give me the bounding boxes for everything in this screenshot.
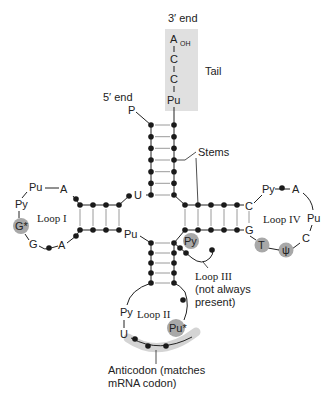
tail-base-c1: C — [170, 53, 178, 65]
loop4-base-pu: Pu — [307, 212, 320, 224]
loop2-label: Loop II — [137, 308, 171, 320]
junction-base-pu: Pu — [124, 228, 137, 240]
tail-oh: OH — [180, 40, 191, 47]
anticodon-stem — [148, 240, 177, 286]
anticodon-label-line1: Anticodon (matches — [108, 364, 206, 376]
loop4-label: Loop IV — [263, 213, 301, 225]
tail-base-pu: Pu — [167, 94, 180, 106]
anticodon-label-line2: mRNA codon) — [108, 377, 176, 389]
stems-label: Stems — [198, 146, 230, 158]
tail-label: Tail — [205, 65, 222, 77]
loop-iv: Py A Pu C ψ T Loop IV — [250, 183, 320, 258]
t-stem-base-c: C — [245, 200, 253, 212]
loop3-label-line3: present) — [195, 296, 235, 308]
loop4-base-py: Py — [262, 183, 275, 195]
acceptor-stem — [148, 122, 177, 198]
loop3-label-line1: Loop III — [195, 270, 232, 282]
phosphate-label: P — [128, 104, 135, 116]
loop4-base-c: C — [302, 232, 310, 244]
loop4-base-t: T — [258, 239, 265, 251]
three-prime-end-label: 3′ end — [168, 12, 198, 24]
loop2-base-py: Py — [120, 306, 133, 318]
loop3-base-py: Py — [184, 235, 197, 247]
loop-i: A Pu Py G* G A Loop I — [13, 181, 80, 251]
loop1-base-a-top: A — [60, 183, 68, 195]
loop3-label-line2: (not always — [195, 283, 251, 295]
loop1-base-g: G — [29, 238, 38, 250]
tail-base-c2: C — [170, 73, 178, 85]
tail-base-a: A — [170, 33, 178, 45]
loop1-base-pu: Pu — [29, 181, 42, 193]
loop4-base-a: A — [292, 183, 300, 195]
d-stem — [77, 202, 122, 233]
loop4-base-psi: ψ — [282, 244, 290, 256]
loop-ii: Py U Pu* Loop II Anticodon (matches mRNA… — [108, 283, 206, 389]
loop1-label: Loop I — [37, 212, 67, 224]
loop2-base-pu-star: Pu* — [169, 322, 187, 334]
trna-cloverleaf-diagram: 3′ end A OH C C Pu Tail 5′ end P — [0, 0, 331, 398]
junction-base-u: U — [134, 189, 142, 201]
loop1-base-py: Py — [15, 198, 28, 210]
phosphate-bond — [136, 112, 151, 125]
loop1-base-a-bottom: A — [58, 239, 66, 251]
loop1-base-g-star: G* — [15, 220, 29, 232]
t-stem-base-g: G — [245, 224, 254, 236]
five-prime-end-label: 5′ end — [103, 91, 133, 103]
loop2-base-u: U — [120, 328, 128, 340]
loop-iii: Py Loop III (not always present) — [174, 233, 251, 308]
